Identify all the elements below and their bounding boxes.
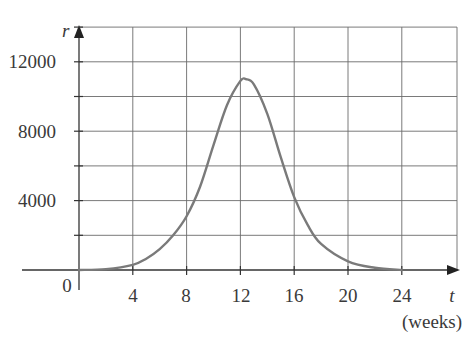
- x-axis-units: (weeks): [402, 311, 462, 333]
- chart-canvas: r 12000 8000 4000 0 4 8 12 16 20 24 t (w…: [0, 0, 472, 344]
- y-axis: [74, 25, 84, 290]
- x-tick-label-20: 20: [339, 285, 358, 306]
- x-tick-label-16: 16: [285, 285, 304, 306]
- x-tick-label-4: 4: [128, 285, 138, 306]
- axis-ticks: [74, 27, 402, 275]
- x-tick-label-24: 24: [393, 285, 413, 306]
- x-axis-label: t: [449, 285, 455, 306]
- x-tick-label-12: 12: [232, 285, 251, 306]
- y-tick-label-4000: 4000: [18, 190, 56, 211]
- y-axis-label: r: [62, 20, 70, 41]
- x-tick-label-8: 8: [181, 285, 191, 306]
- origin-label: 0: [62, 275, 72, 296]
- x-axis-arrow-icon: [447, 265, 460, 275]
- y-tick-label-12000: 12000: [9, 51, 57, 72]
- y-tick-label-8000: 8000: [18, 121, 56, 142]
- grid-lines: [79, 27, 457, 270]
